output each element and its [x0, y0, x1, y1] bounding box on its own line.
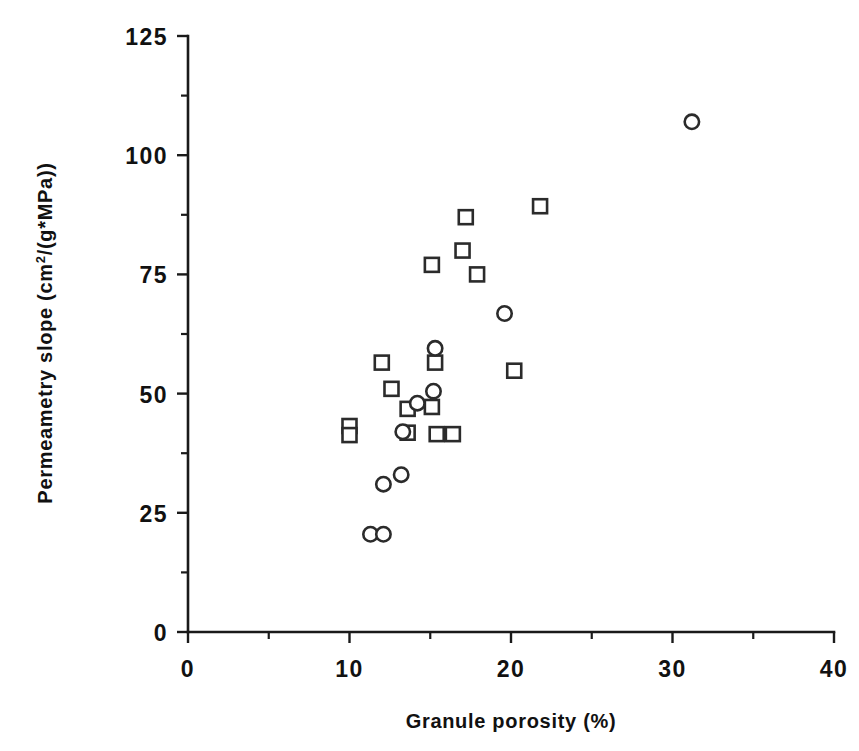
x-axis-title: Granule porosity (%)	[406, 710, 617, 732]
data-point-circle	[394, 467, 408, 481]
data-point-circle	[426, 384, 440, 398]
x-tick-label: 0	[181, 656, 195, 682]
data-point-square	[343, 428, 357, 442]
data-point-square	[470, 267, 484, 281]
data-point-circle	[396, 425, 410, 439]
chart-page: 0255075100125010203040 Granule porosity …	[0, 0, 859, 751]
data-point-square	[507, 364, 521, 378]
y-tick-label: 125	[125, 24, 168, 50]
data-point-square	[425, 400, 439, 414]
x-tick-label: 40	[820, 656, 849, 682]
data-point-square	[456, 244, 470, 258]
axis-ticks	[177, 36, 834, 643]
data-point-circle	[428, 341, 442, 355]
data-point-square	[425, 258, 439, 272]
x-tick-label: 30	[658, 656, 687, 682]
data-point-circle	[410, 396, 424, 410]
y-tick-label: 100	[125, 143, 168, 169]
x-tick-label: 10	[335, 656, 364, 682]
y-axis-title: Permeametry slope (cm2/(g*MPa))	[33, 162, 56, 503]
y-tick-label: 25	[139, 501, 168, 527]
data-point-square	[375, 356, 389, 370]
data-point-square	[459, 210, 473, 224]
data-markers	[343, 115, 700, 542]
data-point-square	[430, 427, 444, 441]
y-tick-label: 0	[154, 620, 168, 646]
data-point-square	[384, 382, 398, 396]
data-point-circle	[685, 115, 699, 129]
data-point-circle	[376, 527, 390, 541]
y-tick-label: 75	[139, 262, 168, 288]
axis-tick-labels: 0255075100125010203040	[125, 24, 848, 682]
data-point-square	[446, 427, 460, 441]
y-tick-label: 50	[139, 382, 168, 408]
x-tick-label: 20	[497, 656, 526, 682]
data-point-square	[428, 356, 442, 370]
data-point-square	[533, 199, 547, 213]
data-point-circle	[497, 306, 511, 320]
data-point-circle	[376, 477, 390, 491]
scatter-plot: 0255075100125010203040 Granule porosity …	[0, 0, 859, 751]
axes	[188, 36, 834, 632]
